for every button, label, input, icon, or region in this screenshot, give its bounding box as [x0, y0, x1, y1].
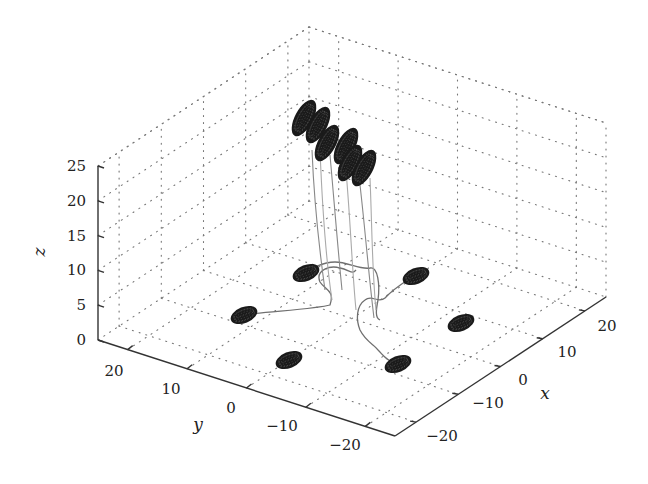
x-axis-label: x	[540, 383, 550, 403]
y-tick-10: 10	[161, 380, 180, 398]
ground-disk	[400, 263, 432, 288]
x-tick-minus20: −20	[426, 427, 458, 445]
z-tick-10: 10	[67, 261, 86, 279]
x-tick-10: 10	[557, 343, 576, 361]
ground-disk	[290, 260, 322, 285]
dotted-grid	[98, 27, 606, 426]
3d-plot: 0 5 10 15 20 25 z 20 10 0 −10 −20 y −20 …	[0, 0, 648, 484]
z-tick-15: 15	[67, 227, 86, 245]
y-tick-minus20: −20	[329, 436, 361, 454]
y-tick-20: 20	[104, 362, 123, 380]
z-tick-5: 5	[76, 296, 86, 314]
ground-disk	[273, 347, 305, 372]
disk-markers	[228, 96, 477, 377]
y-axis-label: y	[192, 414, 203, 434]
z-tick-20: 20	[67, 192, 86, 210]
ground-disk	[382, 351, 414, 376]
z-tick-0: 0	[76, 331, 86, 349]
y-tick-minus10: −10	[266, 417, 298, 435]
z-axis-label: z	[29, 246, 49, 257]
trajectory-paths	[250, 150, 412, 363]
ground-disk	[445, 310, 477, 335]
x-tick-0: 0	[518, 371, 528, 389]
z-tick-25: 25	[67, 157, 86, 175]
y-tick-0: 0	[226, 399, 236, 417]
x-tick-minus10: −10	[472, 394, 504, 412]
x-tick-20: 20	[597, 317, 616, 335]
ground-disk	[228, 302, 260, 327]
